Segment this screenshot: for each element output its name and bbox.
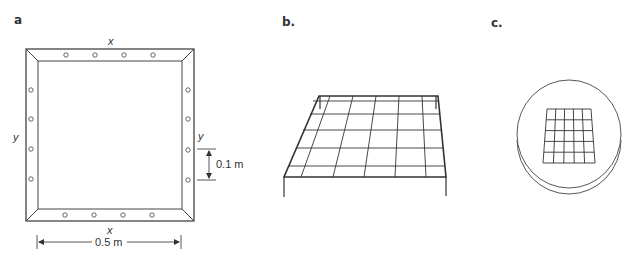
hole-icon (121, 213, 125, 217)
dish-lid (517, 80, 621, 188)
hole-icon (29, 117, 33, 121)
panel-b-label: b. (282, 15, 295, 29)
hole-icon (186, 148, 190, 152)
hole-icon (186, 88, 190, 92)
bottom-axis-label: x (106, 224, 113, 236)
left-axis-label: y (12, 131, 20, 143)
width-dimension: 0.5 m (37, 235, 181, 249)
figure-canvas: a (0, 0, 641, 264)
petri-dish (517, 80, 621, 194)
panel-c: c. (491, 16, 621, 194)
hole-icon (122, 53, 126, 57)
right-axis-label: y (197, 130, 205, 142)
hole-icon (92, 213, 96, 217)
hole-icon (93, 53, 97, 57)
hole-icon (29, 88, 33, 92)
hole-icon (64, 53, 68, 57)
hole-icon (63, 213, 67, 217)
hole-icon (29, 177, 33, 181)
width-dimension-label: 0.5 m (95, 236, 123, 248)
hole-icon (150, 213, 154, 217)
quadrat-frame (26, 49, 194, 221)
panel-b: b. (282, 15, 446, 197)
hole-icon (151, 53, 155, 57)
hole-icon (186, 178, 190, 182)
spacing-dimension: 0.1 m (197, 149, 244, 180)
hole-icon (29, 147, 33, 151)
hole-icon (186, 117, 190, 121)
panel-a-label: a (14, 13, 22, 27)
panel-c-label: c. (491, 16, 503, 30)
grid-quadrat-perspective (284, 96, 446, 197)
spacing-dimension-label: 0.1 m (216, 158, 244, 170)
top-axis-label: x (107, 35, 114, 47)
frame-holes (29, 53, 190, 217)
panel-a: a (12, 13, 244, 249)
